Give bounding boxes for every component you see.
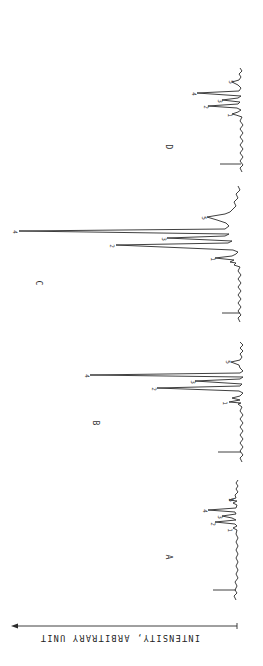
peak-label-5: 5 xyxy=(228,498,235,502)
axis-label: INTENSITY, ARBITRARY UNIT xyxy=(40,633,200,643)
intensity-axis: INTENSITY, ARBITRARY UNIT xyxy=(11,623,237,643)
chromatogram-figure: INTENSITY, ARBITRARY UNIT A 1 2 3 4 5 B … xyxy=(0,0,263,666)
peak-label-5: 5 xyxy=(201,216,208,220)
peak-label-2: 2 xyxy=(151,387,158,391)
peak-label-3: 3 xyxy=(217,515,224,519)
peak-label-1: 1 xyxy=(227,113,234,117)
trace-c: C 1 2 3 4 5 xyxy=(12,186,241,322)
peak-label-5: 5 xyxy=(228,80,235,84)
peak-label-1: 1 xyxy=(210,257,217,261)
trace-b: B 1 2 3 4 5 xyxy=(84,342,243,462)
panel-label-c: C xyxy=(34,281,43,286)
trace-d: D 1 2 3 4 5 xyxy=(164,68,243,172)
panel-label-d: D xyxy=(164,145,173,150)
panel-label-b: B xyxy=(91,421,100,426)
peak-label-1: 1 xyxy=(222,401,229,405)
peak-label-4: 4 xyxy=(84,374,91,378)
peak-label-2: 2 xyxy=(210,522,217,526)
peak-label-3: 3 xyxy=(161,237,168,241)
arrow-head-icon xyxy=(11,624,18,629)
peak-label-4: 4 xyxy=(191,92,198,96)
peak-label-2: 2 xyxy=(109,244,116,248)
peak-label-5: 5 xyxy=(225,360,232,364)
peak-label-3: 3 xyxy=(190,380,197,384)
panel-label-a: A xyxy=(164,555,173,560)
peak-label-2: 2 xyxy=(203,105,210,109)
peak-label-4: 4 xyxy=(12,230,19,234)
peak-label-4: 4 xyxy=(202,509,209,513)
peak-label-3: 3 xyxy=(217,99,224,103)
peak-label-1: 1 xyxy=(227,528,234,532)
trace-a: A 1 2 3 4 5 xyxy=(164,480,238,600)
